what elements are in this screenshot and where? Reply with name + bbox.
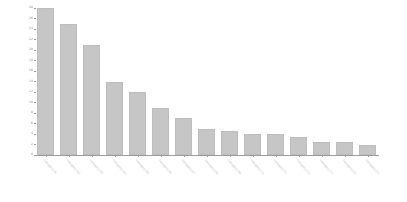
y-axis-tick-label: 4 (31, 132, 33, 135)
x-axis-tick-mark (368, 155, 369, 157)
y-axis-tick-label: 0 (31, 153, 33, 156)
bar (60, 24, 77, 155)
x-axis: category-01category-02category-03categor… (34, 155, 379, 202)
x-axis-tick-label: category-14 (341, 159, 356, 175)
x-axis-tick-mark (207, 155, 208, 157)
x-axis-tick-mark (276, 155, 277, 157)
y-axis-tick-label: 24 (30, 27, 34, 30)
bar (244, 134, 261, 155)
x-axis-tick-mark (138, 155, 139, 157)
y-axis-tick-label: 12 (30, 90, 34, 93)
x-axis-tick-mark (184, 155, 185, 157)
x-axis-tick-label: category-08 (203, 159, 218, 175)
x-axis-tick-mark (69, 155, 70, 157)
bar (359, 145, 376, 156)
y-axis-tick-label: 10 (30, 101, 34, 104)
y-axis-tick-label: 2 (31, 143, 33, 146)
y-axis-tick-label: 14 (30, 80, 34, 83)
x-axis-tick-mark (161, 155, 162, 157)
x-axis-tick-label: category-01 (42, 159, 57, 175)
x-axis-tick-label: category-11 (272, 159, 287, 175)
x-axis-tick-label: category-09 (226, 159, 241, 175)
bar (106, 82, 123, 156)
bar (175, 118, 192, 155)
bar (83, 45, 100, 155)
y-axis-tick-label: 22 (30, 38, 34, 41)
x-axis-tick-label: category-10 (249, 159, 264, 175)
x-axis-tick-label: category-07 (180, 159, 195, 175)
y-axis-tick-label: 8 (31, 111, 33, 114)
x-axis-tick-mark (345, 155, 346, 157)
y-axis-tick-label: 26 (30, 17, 34, 20)
y-axis: 0246810121416182022242628 (0, 0, 36, 202)
y-axis-tick-label: 28 (30, 6, 34, 9)
x-axis-tick-label: category-05 (134, 159, 149, 175)
y-axis-tick-label: 18 (30, 59, 34, 62)
x-axis-tick-mark (253, 155, 254, 157)
bar (267, 134, 284, 155)
x-axis-tick-mark (322, 155, 323, 157)
bar (336, 142, 353, 155)
bar (129, 92, 146, 155)
x-axis-tick-mark (92, 155, 93, 157)
x-axis-tick-label: category-06 (157, 159, 172, 175)
y-axis-tick-label: 20 (30, 48, 34, 51)
bar (221, 131, 238, 155)
bar (37, 8, 54, 155)
plot-area (34, 0, 379, 155)
x-axis-tick-label: category-02 (65, 159, 80, 175)
bar (313, 142, 330, 155)
x-axis-tick-mark (230, 155, 231, 157)
x-axis-tick-label: category-03 (88, 159, 103, 175)
x-axis-tick-label: category-15 (364, 159, 379, 175)
bar-chart: 0246810121416182022242628 category-01cat… (0, 0, 407, 202)
x-axis-tick-label: category-12 (295, 159, 310, 175)
y-axis-tick-label: 16 (30, 69, 34, 72)
bar (198, 129, 215, 155)
y-axis-tick-label: 6 (31, 122, 33, 125)
bar (290, 137, 307, 155)
x-axis-tick-mark (46, 155, 47, 157)
bar (152, 108, 169, 155)
x-axis-tick-label: category-13 (318, 159, 333, 175)
x-axis-tick-mark (115, 155, 116, 157)
x-axis-tick-mark (299, 155, 300, 157)
x-axis-tick-label: category-04 (111, 159, 126, 175)
